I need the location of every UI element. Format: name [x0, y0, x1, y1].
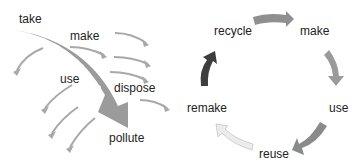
arrow-recycle-to-make-icon [253, 11, 294, 27]
arrow-reuse-to-remake-icon [216, 124, 253, 150]
arrow-use-to-reuse-icon [292, 122, 327, 155]
label-make-cycle: make [300, 25, 329, 37]
arrow-make-to-use-icon [324, 50, 344, 86]
label-reuse: reuse [259, 148, 289, 160]
label-remake: remake [187, 102, 227, 114]
diagram-canvas: take make use dispose pollute recycle ma… [0, 0, 363, 167]
arrow-remake-to-recycle-icon [201, 51, 217, 86]
label-recycle: recycle [214, 25, 252, 37]
label-use-cycle: use [329, 102, 348, 114]
